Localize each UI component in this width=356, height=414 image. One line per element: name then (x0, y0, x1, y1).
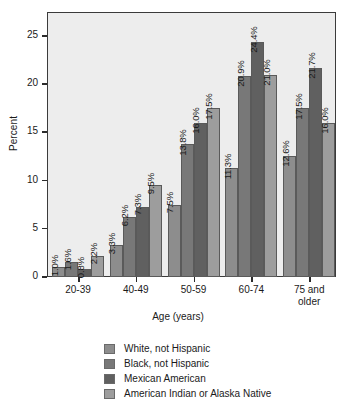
legend-label: American Indian or Alaska Native (124, 388, 271, 399)
bar: 2.2% (91, 256, 104, 277)
legend-item: American Indian or Alaska Native (104, 386, 271, 401)
bar-value-label: 3.3% (107, 233, 117, 254)
bar-value-label: 7.3% (133, 194, 143, 215)
bar-group: 3.3%6.2%7.3%9.5% (110, 12, 162, 277)
legend-swatch (104, 344, 115, 354)
legend-item: White, not Hispanic (104, 341, 271, 356)
legend-item: Mexican American (104, 371, 271, 386)
bar: 11.3% (225, 168, 238, 277)
x-axis-tick-mark (136, 277, 138, 282)
bar-value-label: 2.2% (88, 243, 98, 264)
bar-value-label: 13.8% (178, 129, 188, 155)
legend-label: Black, not Hispanic (124, 358, 209, 369)
legend-swatch (104, 359, 115, 369)
bar-group: 12.6%17.5%21.7%16.0% (283, 12, 335, 277)
bar-group: 7.5%13.8%16.0%17.5% (168, 12, 220, 277)
bar-group: 11.3%20.9%24.4%21.0% (225, 12, 277, 277)
bar-value-label: 16.0% (191, 108, 201, 134)
bar-value-label: 1.0% (49, 255, 59, 276)
y-axis-title: Percent (8, 99, 19, 169)
legend: White, not HispanicBlack, not HispanicMe… (104, 341, 271, 401)
bar-value-label: 6.2% (120, 205, 130, 226)
y-axis-tick-label: 5 (32, 222, 38, 233)
bar: 9.5% (149, 185, 162, 277)
bar-value-label: 0.8% (75, 257, 85, 278)
bar-value-label: 12.6% (280, 140, 290, 166)
bar: 20.9% (238, 76, 251, 277)
bar-value-label: 17.5% (293, 93, 303, 119)
bar: 13.8% (181, 144, 194, 277)
y-axis-tick-label: 0 (32, 270, 38, 281)
bar-value-label: 20.9% (235, 60, 245, 86)
y-axis-tick-label: 25 (27, 29, 38, 40)
y-axis-tick-label: 20 (27, 77, 38, 88)
bar: 0.8% (78, 269, 91, 277)
bar: 17.5% (207, 108, 220, 277)
x-axis-title: Age (years) (0, 311, 356, 322)
bar-value-label: 16.0% (319, 108, 329, 134)
y-axis-tick-label: 10 (27, 174, 38, 185)
legend-swatch (104, 389, 115, 399)
bar: 21.7% (309, 68, 322, 277)
bar: 17.5% (296, 108, 309, 277)
legend-item: Black, not Hispanic (104, 356, 271, 371)
x-axis-tick-mark (309, 277, 311, 282)
bar: 12.6% (283, 156, 296, 277)
bar: 7.5% (168, 205, 181, 277)
y-axis-tick-label: 15 (27, 125, 38, 136)
x-axis-tick-mark (78, 277, 80, 282)
bar: 3.3% (110, 245, 123, 277)
legend-label: White, not Hispanic (124, 343, 210, 354)
x-axis-tick-mark (194, 277, 196, 282)
bar-chart-figure: Percent 0510152025 Age (years) White, no… (0, 0, 356, 414)
x-axis-category-label: 75 and older (274, 284, 344, 307)
bar-value-label: 11.3% (222, 153, 232, 179)
bar-value-label: 9.5% (146, 173, 156, 194)
bar: 7.3% (136, 207, 149, 277)
bar-value-label: 17.5% (204, 93, 214, 119)
bar: 21.0% (264, 75, 277, 277)
bar-value-label: 7.5% (165, 192, 175, 213)
bar-group: 1.0%1.6%0.8%2.2% (52, 12, 104, 277)
bar-value-label: 1.6% (62, 249, 72, 270)
bar: 16.0% (194, 123, 207, 277)
bar-value-label: 21.0% (261, 59, 271, 85)
bar: 16.0% (322, 123, 335, 277)
bar-value-label: 21.7% (306, 53, 316, 79)
bar: 6.2% (123, 217, 136, 277)
legend-swatch (104, 374, 115, 384)
bar-value-label: 24.4% (248, 27, 258, 53)
legend-label: Mexican American (124, 373, 206, 384)
x-axis-tick-mark (251, 277, 253, 282)
